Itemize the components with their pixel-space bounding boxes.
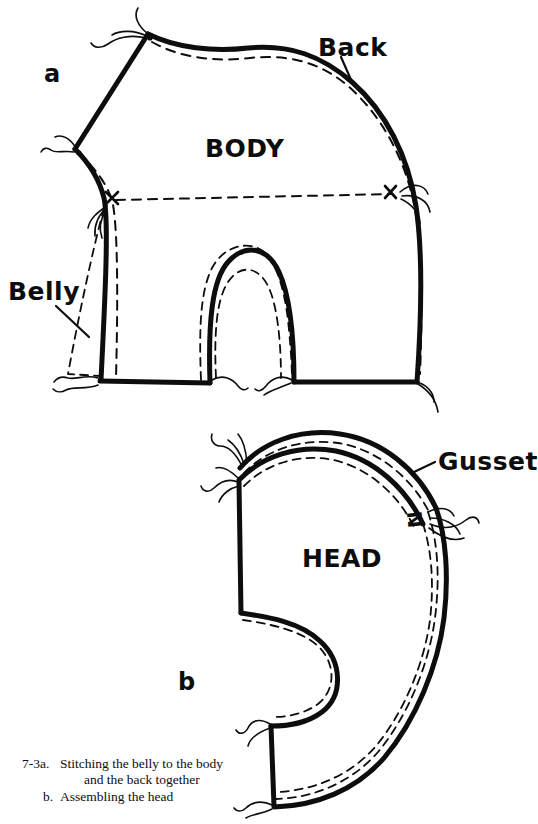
back-stitch-line <box>152 42 421 374</box>
caption-line-1: Stitching the belly to the body <box>60 756 223 771</box>
label-belly: Belly <box>8 277 80 306</box>
head-neck-seam <box>271 726 274 806</box>
thread-tails-arch-left <box>212 377 248 390</box>
notch-mark-n: N <box>402 509 428 529</box>
thread-tails-right-foot <box>416 382 438 412</box>
belly-leader-line <box>56 306 89 337</box>
figure-illustration: a Back BODY Belly <box>0 0 538 824</box>
panel-b-head-assembly: N Gusset HEAD b <box>178 433 538 818</box>
head-jaw-stitch <box>243 620 332 717</box>
label-body: BODY <box>205 134 285 163</box>
pattern-diagram-svg: a Back BODY Belly <box>0 0 538 824</box>
caption-line-2: and the back together <box>84 772 200 787</box>
label-head: HEAD <box>302 544 382 573</box>
thread-tails-shoulder <box>41 136 76 152</box>
panel-a-body-assembly: a Back BODY Belly <box>8 8 438 412</box>
match-mark-right-x <box>385 186 396 198</box>
match-mark-left-x <box>106 192 118 204</box>
thread-tails-top <box>91 8 148 47</box>
figure-caption: 7-3a. Stitching the belly to the body an… <box>22 756 223 804</box>
body-shoulder-seam <box>75 34 148 149</box>
thread-tails-arch-right <box>255 377 292 395</box>
caption-line-3: Assembling the head <box>60 789 173 804</box>
thread-tails-jaw <box>236 721 270 746</box>
label-back: Back <box>318 33 388 62</box>
caption-number-b: b. <box>43 789 53 804</box>
knot-dot-shoulder <box>76 150 81 155</box>
knot-dot-top <box>147 35 152 40</box>
caption-number-a: 7-3a. <box>22 756 49 771</box>
thread-tails-chin <box>234 802 272 818</box>
body-bottom-left-seam <box>100 381 210 383</box>
thread-tails-head-top <box>211 434 247 466</box>
thread-tails-head-shoulder <box>201 467 239 502</box>
gusset-leader-line <box>414 462 435 472</box>
label-gusset: Gusset <box>438 447 538 476</box>
panel-a-marker: a <box>44 60 61 88</box>
panel-b-marker: b <box>178 668 196 696</box>
body-back-seam <box>148 34 421 382</box>
head-top-stitch <box>244 458 414 527</box>
thread-tails-left-foot <box>53 377 98 392</box>
leg-arch-inner-stitch-line <box>215 270 281 378</box>
head-left-seam <box>239 482 241 613</box>
horizontal-match-line <box>116 194 392 200</box>
